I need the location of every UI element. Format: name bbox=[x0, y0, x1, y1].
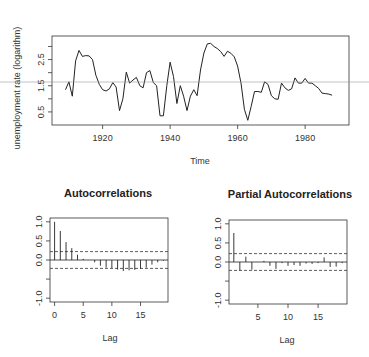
pacf-panel: Partial Autocorrelations -1.00.00.51.051… bbox=[213, 188, 352, 345]
acf-panel: Autocorrelations -1.00.00.51.0051015 Lag bbox=[34, 187, 168, 343]
time-series-x-axis: 1920194019601980 bbox=[93, 125, 316, 143]
x-tick-label: 15 bbox=[135, 310, 145, 320]
time-series-x-label: Time bbox=[190, 156, 210, 166]
x-tick-label: 0 bbox=[52, 310, 57, 320]
y-tick-label: 1.0 bbox=[34, 216, 44, 229]
time-series-plot-box bbox=[52, 36, 349, 125]
x-tick-label: 1960 bbox=[228, 133, 248, 143]
pacf-x-label: Lag bbox=[279, 335, 294, 345]
time-series-y-axis: 0.51.52.5 bbox=[36, 46, 52, 118]
figure: 0.51.52.5 1920194019601980 Time unemploy… bbox=[0, 0, 369, 357]
y-tick-label: 0.5 bbox=[34, 235, 44, 248]
y-tick-label: 2.5 bbox=[36, 53, 46, 66]
y-tick-label: 0.5 bbox=[213, 237, 223, 250]
y-tick-label: 1.0 bbox=[213, 218, 223, 231]
y-tick-label: 1.5 bbox=[36, 79, 46, 92]
time-series-y-label: unemployment rate (logarithm) bbox=[12, 27, 22, 150]
y-tick-label: -1.0 bbox=[213, 292, 223, 308]
x-tick-label: 10 bbox=[107, 310, 117, 320]
x-tick-label: 10 bbox=[283, 312, 293, 322]
pacf-title: Partial Autocorrelations bbox=[228, 188, 352, 200]
x-tick-label: 15 bbox=[313, 312, 323, 322]
x-tick-label: 5 bbox=[255, 312, 260, 322]
y-tick-label: 0.0 bbox=[213, 256, 223, 269]
acf-title: Autocorrelations bbox=[64, 187, 152, 199]
x-tick-label: 1940 bbox=[160, 133, 180, 143]
pacf-bars: -1.00.00.51.051015 bbox=[213, 218, 347, 322]
x-tick-label: 5 bbox=[81, 310, 86, 320]
acf-x-label: Lag bbox=[102, 333, 117, 343]
y-tick-label: 0.0 bbox=[34, 254, 44, 267]
x-tick-label: 1980 bbox=[295, 133, 315, 143]
y-tick-label: -1.0 bbox=[34, 290, 44, 306]
acf-bars: -1.00.00.51.0051015 bbox=[34, 216, 168, 320]
time-series-panel: 0.51.52.5 1920194019601980 Time unemploy… bbox=[12, 27, 349, 166]
x-tick-label: 1920 bbox=[93, 133, 113, 143]
y-tick-label: 0.5 bbox=[36, 106, 46, 119]
